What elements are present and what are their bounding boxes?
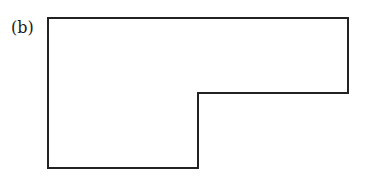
l-shape-diagram bbox=[0, 0, 371, 178]
l-shaped-outline bbox=[48, 18, 348, 168]
